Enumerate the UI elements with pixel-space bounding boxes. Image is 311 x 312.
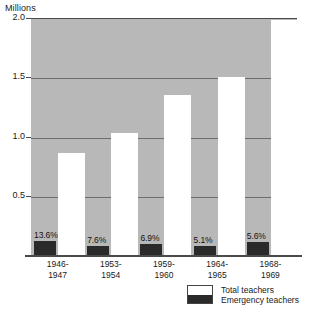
emergency-percent-label: 13.6% [34, 230, 58, 240]
legend-swatch-total [188, 286, 212, 295]
bar-total-teachers[interactable] [111, 133, 138, 255]
legend-label-total: Total teachers [221, 285, 299, 295]
legend-swatch-emergency [188, 295, 212, 304]
bar-emergency-teachers[interactable] [194, 246, 216, 255]
emergency-percent-label: 5.6% [247, 231, 266, 241]
legend-label-emergency: Emergency teachers [221, 295, 299, 305]
x-axis-category-label: 1968-1969 [244, 259, 297, 281]
x-axis-category-label: 1959-1960 [137, 259, 190, 281]
y-tick-mark [26, 196, 31, 197]
x-axis-category-line: 1946- [31, 259, 84, 270]
chart-legend: Total teachers Emergency teachers [187, 285, 299, 305]
x-axis-category-line: 1953- [84, 259, 137, 270]
bar-total-teachers[interactable] [164, 95, 191, 255]
bar-total-teachers[interactable] [58, 153, 85, 255]
x-axis-category-line: 1964- [191, 259, 244, 270]
x-axis-category-line: 1968- [244, 259, 297, 270]
x-axis-category-label: 1946-1947 [31, 259, 84, 281]
x-axis-category-label: 1953-1954 [84, 259, 137, 281]
gridline [31, 78, 297, 79]
emergency-percent-label: 7.6% [87, 235, 106, 245]
legend-label-group: Total teachers Emergency teachers [221, 285, 299, 305]
x-axis-category-line: 1947 [31, 270, 84, 281]
emergency-percent-label: 6.9% [140, 233, 159, 243]
bar-emergency-teachers[interactable] [87, 246, 109, 255]
x-axis-category-line: 1954 [84, 270, 137, 281]
y-tick-label: 1.0 [3, 131, 25, 141]
emergency-percent-label: 5.1% [194, 235, 213, 245]
x-axis-line [25, 255, 302, 257]
x-axis-category-line: 1965 [191, 270, 244, 281]
y-tick-mark [26, 18, 31, 19]
x-axis-category-line: 1959- [137, 259, 190, 270]
y-tick-label: 1.5 [3, 71, 25, 81]
bar-total-teachers[interactable] [218, 77, 245, 255]
y-tick-label: 2.0 [3, 12, 25, 22]
y-tick-mark [26, 77, 31, 78]
bar-emergency-teachers[interactable] [247, 242, 269, 255]
bar-total-teachers[interactable] [271, 20, 298, 255]
chart-figure: Millions 0.51.01.52.0 13.6%7.6%6.9%5.1%5… [0, 0, 311, 312]
x-axis-category-label: 1964-1965 [191, 259, 244, 281]
bar-emergency-teachers[interactable] [34, 241, 56, 255]
x-axis-category-line: 1960 [137, 270, 190, 281]
legend-swatch [187, 285, 213, 304]
y-tick-mark [26, 137, 31, 138]
y-tick-label: 0.5 [3, 190, 25, 200]
x-axis-category-line: 1969 [244, 270, 297, 281]
bar-emergency-teachers[interactable] [140, 244, 162, 255]
